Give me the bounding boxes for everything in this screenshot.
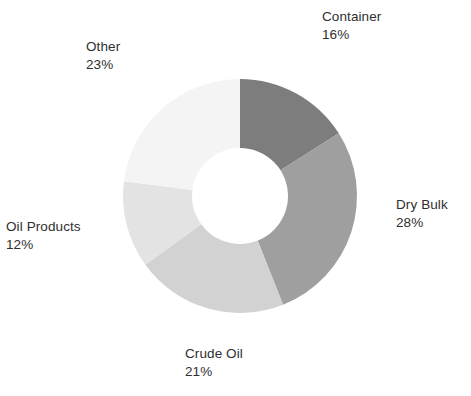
donut-chart: Container 16% Dry Bulk 28% Crude Oil 21%… [0,0,471,396]
slice-label-other-value: 23% [86,56,120,74]
slice-label-container-value: 16% [322,26,381,44]
slice-label-oil-products: Oil Products 12% [6,218,81,254]
slice-label-crude-oil-name: Crude Oil [185,345,243,363]
slice-label-dry-bulk-name: Dry Bulk [396,196,448,214]
slice-label-crude-oil-value: 21% [185,363,243,381]
slice-label-other-name: Other [86,38,120,56]
slice-label-oil-products-value: 12% [6,236,81,254]
slice-label-dry-bulk: Dry Bulk 28% [396,196,448,232]
slice-label-dry-bulk-value: 28% [396,214,448,232]
slice-label-other: Other 23% [86,38,120,74]
slice-label-crude-oil: Crude Oil 21% [185,345,243,381]
slice-label-container: Container 16% [322,8,381,44]
donut-hole [192,148,288,244]
slice-label-oil-products-name: Oil Products [6,218,81,236]
slice-label-container-name: Container [322,8,381,26]
